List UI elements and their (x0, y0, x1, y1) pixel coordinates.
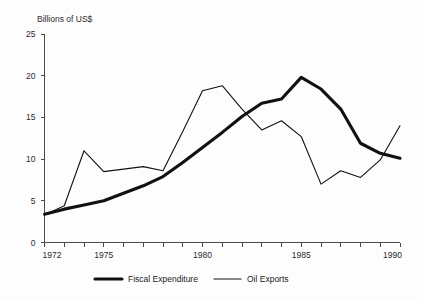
x-axis-tick-label: 1990 (383, 250, 402, 260)
x-axis-tick-label: 1975 (94, 250, 113, 260)
line-chart: Billions of US$ 0510152025 1972197519801… (0, 0, 423, 301)
y-axis-tick-label: 0 (31, 238, 36, 248)
y-axis-tick-label: 5 (31, 196, 36, 206)
chart-canvas: Billions of US$ 0510152025 1972197519801… (0, 0, 423, 301)
y-axis-tick-label: 10 (26, 154, 36, 164)
y-axis-title: Billions of US$ (37, 14, 93, 24)
y-axis-tick-label: 20 (26, 71, 36, 81)
legend-label-oil-exports: Oil Exports (247, 274, 289, 284)
y-axis-tick-label: 15 (26, 112, 36, 122)
x-axis-tick-label: 1972 (43, 250, 62, 260)
y-axis-tick-label: 25 (26, 29, 36, 39)
x-axis-tick-label: 1980 (193, 250, 212, 260)
legend-label-fiscal-expenditure: Fiscal Expenditure (128, 274, 198, 284)
x-axis-tick-label: 1985 (292, 250, 311, 260)
